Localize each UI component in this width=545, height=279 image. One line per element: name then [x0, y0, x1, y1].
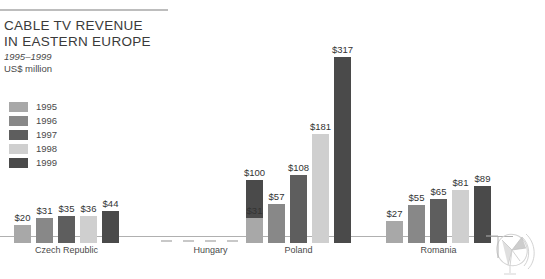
group-label-czech-republic: Czech Republic	[0, 245, 137, 255]
bar-romania-1997	[430, 199, 447, 243]
bar-czech-republic-1998	[80, 216, 97, 243]
bar-value-hungary-1999: $100	[235, 167, 275, 178]
chart-page: CABLE TV REVENUE IN EASTERN EUROPE 1995–…	[0, 0, 545, 279]
bar-romania-1998	[452, 190, 469, 243]
bar-poland-1995	[246, 218, 263, 243]
bar-poland-1999	[334, 57, 351, 243]
chart-plot-area: $20$31$35$36$44Czech Republic$100Hungary…	[0, 0, 545, 279]
satellite-dish-icon	[486, 228, 542, 279]
bar-poland-1996	[268, 204, 285, 243]
bar-czech-republic-1997	[58, 216, 75, 243]
bar-poland-1997	[290, 175, 307, 243]
group-label-poland: Poland	[229, 245, 369, 255]
bar-romania-1995	[386, 221, 403, 243]
bar-hungary-1995	[161, 240, 172, 242]
bar-czech-republic-1999	[102, 211, 119, 243]
bar-poland-1998	[312, 134, 329, 243]
bar-czech-republic-1996	[36, 218, 53, 243]
bar-hungary-1996	[183, 240, 194, 242]
bar-hungary-1997	[205, 240, 216, 242]
bar-romania-1996	[408, 205, 425, 243]
bar-czech-republic-1995	[14, 225, 31, 243]
bar-value-czech-republic-1999: $44	[91, 198, 131, 209]
bar-hungary-1998	[227, 240, 238, 242]
bar-value-romania-1999: $89	[463, 173, 503, 184]
bar-value-poland-1999: $317	[323, 44, 363, 55]
